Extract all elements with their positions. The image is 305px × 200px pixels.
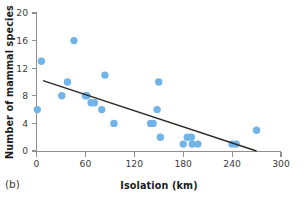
data-point [194,140,201,147]
panel-label: (b) [5,178,20,190]
trend-line [43,81,257,151]
x-tick-label: 120 [126,158,144,169]
data-point [110,120,117,127]
data-point [70,37,77,44]
y-tick-label: 16 [16,35,28,46]
data-point [91,99,98,106]
y-tick-label: 8 [22,90,28,101]
x-tick-label: 0 [34,158,40,169]
y-axis-ticks: 0 4 8 12 16 20 [16,7,36,156]
y-tick-label: 20 [16,7,28,18]
x-tick-label: 300 [272,158,290,169]
data-point [38,58,45,65]
y-tick-label: 0 [22,145,28,156]
x-tick-label: 180 [174,158,192,169]
scatter-plot-figure: 0 4 8 12 16 20 0 60 120 180 240 300 Is [0,0,305,200]
data-point [155,78,162,85]
data-point [98,106,105,113]
data-point [253,127,260,134]
y-tick-label: 12 [16,63,28,74]
data-point [34,106,41,113]
data-point [188,134,195,141]
data-point [153,106,160,113]
data-point [101,71,108,78]
data-points-layer [34,37,261,148]
x-axis-ticks: 0 60 120 180 240 300 [34,152,290,170]
data-point [64,78,71,85]
y-axis-title: Number of mammal species [4,5,15,159]
data-point [149,120,156,127]
y-tick-label: 4 [22,118,28,129]
plot-canvas: 0 4 8 12 16 20 0 60 120 180 240 300 Is [0,0,305,200]
data-point [157,134,164,141]
x-tick-label: 240 [223,158,241,169]
x-axis-title: Isolation (km) [120,180,198,191]
x-tick-label: 60 [80,158,92,169]
data-point [58,92,65,99]
data-point [180,140,187,147]
